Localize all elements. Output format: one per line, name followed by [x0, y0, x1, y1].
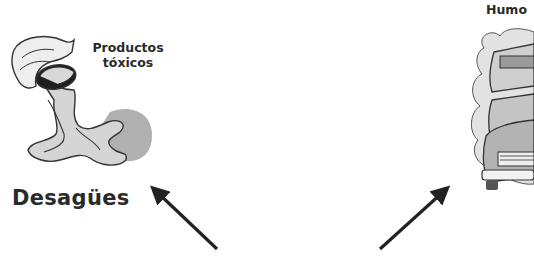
- arrow-up-right-icon: [380, 192, 443, 249]
- title-desagues: Desagües: [12, 186, 129, 210]
- arrow-up-left-icon: [157, 192, 217, 249]
- scene-canvas: [0, 0, 534, 264]
- caption-humo: Humo: [486, 2, 527, 17]
- caption-line-1: Productos: [86, 40, 170, 55]
- cars-smoke-icon: [471, 29, 534, 190]
- caption-line-2: tóxicos: [86, 55, 170, 70]
- caption-productos-toxicos: Productos tóxicos: [86, 40, 170, 70]
